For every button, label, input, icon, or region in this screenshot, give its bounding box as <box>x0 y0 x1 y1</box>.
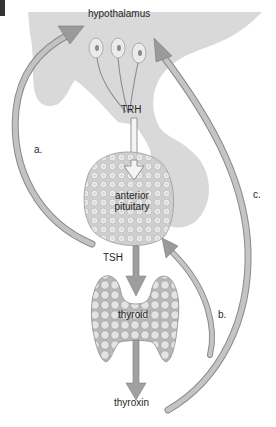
label-arrow-b: b. <box>218 310 226 320</box>
tsh-arrow <box>126 246 146 296</box>
label-arrow-c: c. <box>253 190 261 200</box>
label-trh: TRH <box>121 105 142 115</box>
label-tsh: TSH <box>103 253 123 263</box>
label-arrow-a: a. <box>34 145 42 155</box>
label-hypothalamus: hypothalamus <box>88 9 150 19</box>
thyroxin-arrow <box>126 340 146 400</box>
label-thyroid: thyroid <box>118 310 148 320</box>
label-pituitary: pituitary <box>114 202 149 212</box>
label-anterior: anterior <box>115 191 149 201</box>
thyroid-feedback-diagram <box>0 0 276 427</box>
label-thyroxin: thyroxin <box>114 398 149 408</box>
